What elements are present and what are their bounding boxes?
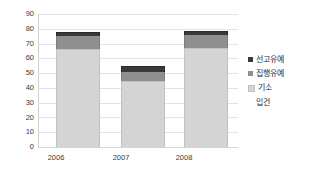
y-tick-label-70: 70 xyxy=(10,40,34,48)
y-tick-label-40: 40 xyxy=(10,84,34,92)
y-tick-label-20: 20 xyxy=(10,114,34,122)
legend-marker-icon-선고유예 xyxy=(248,57,253,62)
bar-segment-2006-집행유예 xyxy=(56,36,100,49)
y-tick-label-60: 60 xyxy=(10,55,34,63)
y-tick-label-80: 80 xyxy=(10,25,34,33)
x-tick-label-2007: 2007 xyxy=(91,154,151,162)
y-tick-label-50: 50 xyxy=(10,69,34,77)
legend-label-기소: 기소 xyxy=(258,83,272,92)
legend-label-집행유예: 집행유예 xyxy=(256,69,284,78)
y-tick-label-0: 0 xyxy=(10,143,34,151)
legend-marker-icon-집행유예 xyxy=(248,71,253,76)
stacked-bar-chart: 90 80 70 60 50 40 30 20 10 0 xyxy=(0,0,310,185)
gridline-0-baseline xyxy=(38,147,238,148)
legend-item-집행유예: 집행유예 xyxy=(248,69,308,78)
gridline-90 xyxy=(38,14,238,15)
plot-area xyxy=(38,14,238,147)
legend-marker-icon-기소입건 xyxy=(248,85,255,92)
bar-group-2006 xyxy=(56,32,100,147)
bar-segment-2008-집행유예 xyxy=(184,35,228,48)
legend-item-기소입건: 기소 xyxy=(248,83,308,92)
x-tick-label-2006: 2006 xyxy=(26,154,86,162)
y-tick-label-10: 10 xyxy=(10,129,34,137)
bar-segment-2007-선고유예 xyxy=(121,66,165,73)
gridline-80 xyxy=(38,29,238,30)
bar-group-2008 xyxy=(184,31,228,147)
legend-label-선고유예: 선고유예 xyxy=(256,55,284,64)
bar-segment-2006-기소입건 xyxy=(56,49,100,147)
bar-segment-2007-집행유예 xyxy=(121,72,165,80)
bar-group-2007 xyxy=(121,66,165,147)
x-tick-label-2008: 2008 xyxy=(154,154,214,162)
y-tick-label-90: 90 xyxy=(10,10,34,18)
y-tick-label-30: 30 xyxy=(10,99,34,107)
bar-segment-2008-기소입건 xyxy=(184,48,228,147)
chart-legend: 선고유예 집행유예 기소 입건 xyxy=(248,55,308,107)
legend-item-선고유예: 선고유예 xyxy=(248,55,308,64)
legend-label-기소입건-continuation: 입건 xyxy=(256,98,308,107)
bar-segment-2007-기소입건 xyxy=(121,81,165,148)
